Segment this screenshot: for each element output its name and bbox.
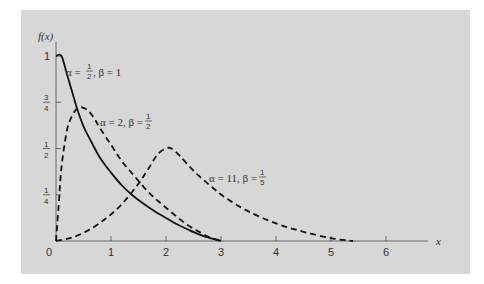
svg-text:2: 2 xyxy=(146,122,151,131)
label-alpha-2-beta-half: α = 2, β = 1 2 xyxy=(100,112,152,131)
x-tick-label: 2 xyxy=(163,246,169,258)
chart-svg: f(x) x 0 123456 1341214 α = 1 2 , β = 1 … xyxy=(0,0,484,284)
x-tick-label: 5 xyxy=(328,246,334,258)
y-tick-label-den: 2 xyxy=(44,151,49,160)
svg-text:2: 2 xyxy=(87,72,92,81)
svg-text:α =: α = xyxy=(66,66,81,78)
svg-text:α = 11, β =: α = 11, β = xyxy=(209,172,257,184)
x-tick-label: 3 xyxy=(218,246,224,258)
label-alpha-half-beta-1: α = 1 2 , β = 1 xyxy=(66,62,121,81)
x-axis-label: x xyxy=(435,235,441,247)
series-alpha-half-beta-1 xyxy=(56,55,221,241)
svg-text:1: 1 xyxy=(146,112,151,121)
origin-label: 0 xyxy=(46,246,52,258)
series-alpha-11-beta-fifth xyxy=(56,148,353,241)
label-alpha-11-beta-fifth: α = 11, β = 1 5 xyxy=(209,168,266,187)
svg-text:1: 1 xyxy=(260,168,265,177)
x-tick-label: 4 xyxy=(273,246,279,258)
y-tick-label-num: 1 xyxy=(44,186,49,195)
x-tick-label: 6 xyxy=(383,246,389,258)
y-axis-label: f(x) xyxy=(38,30,54,43)
y-tick-label-den: 4 xyxy=(44,197,49,206)
x-ticks: 123456 xyxy=(108,236,389,258)
x-tick-label: 1 xyxy=(108,246,114,258)
y-ticks: 1341214 xyxy=(43,50,61,206)
y-tick-label: 1 xyxy=(44,50,50,62)
svg-text:, β = 1: , β = 1 xyxy=(93,66,121,78)
svg-text:5: 5 xyxy=(260,178,265,187)
y-tick-label-num: 3 xyxy=(44,93,49,102)
svg-text:α = 2, β =: α = 2, β = xyxy=(100,116,143,128)
svg-text:1: 1 xyxy=(87,62,92,71)
y-tick-label-num: 1 xyxy=(44,140,49,149)
y-tick-label-den: 4 xyxy=(44,104,49,113)
